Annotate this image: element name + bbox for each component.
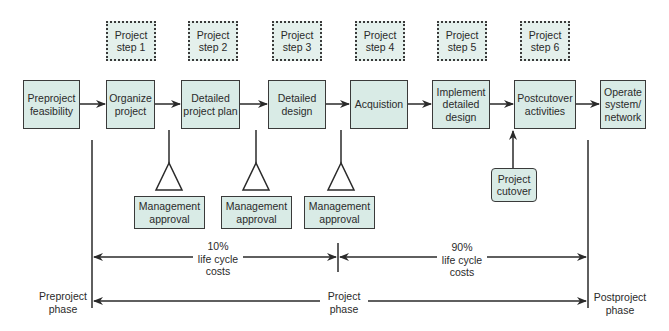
stage-postcutover-activities: Postcutover activities [514,80,576,129]
project-step-4: Project step 4 [355,21,405,61]
milestone-triangle-icon [243,163,269,190]
milestone-triangle-icon [156,163,182,190]
project-step-5: Project step 5 [437,21,487,61]
stage-acquisition: Acquistion [350,80,408,129]
project-step-3: Project step 3 [272,21,322,61]
phase-label-preproject: Preproject phase [36,290,90,315]
management-approval-1: Management approval [134,196,205,229]
management-approval-2: Management approval [221,196,292,229]
stage-implement-detailed-design: Implement detailed design [432,80,490,129]
stage-detailed-design: Detailed design [268,80,326,129]
project-step-6: Project step 6 [520,21,570,61]
stage-operate-system-network: Operate system/ network [600,80,646,129]
stage-organize-project: Organize project [106,80,155,129]
management-approval-3: Management approval [304,196,375,229]
milestone-triangle-icon [328,163,354,190]
stage-preproject-feasibility: Preproject feasibility [23,80,80,129]
phase-label-postproject: Postproject phase [590,291,650,316]
stage-detailed-project-plan: Detailed project plan [181,80,240,129]
project-cutover: Project cutover [491,168,537,202]
phase-label-project: Project phase [321,290,367,315]
project-step-1: Project step 1 [106,21,156,61]
project-step-2: Project step 2 [188,21,238,61]
cost-label-10: 10% life cycle costs [193,240,243,278]
cost-label-90: 90% life cycle costs [437,241,487,279]
